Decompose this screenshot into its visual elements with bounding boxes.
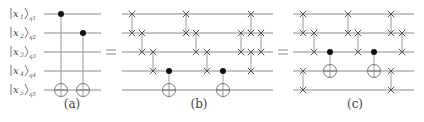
control-dot-icon [220,68,226,74]
control-dot-icon [166,68,172,74]
circuit-caption: (c) [347,97,363,111]
ket-angle [25,65,28,76]
ket-symbol: x [13,84,19,95]
equals-sign [106,50,116,54]
qubit-name: q2 [29,34,37,41]
ket-symbol: x [13,8,19,19]
ket-angle [25,84,28,95]
control-dot-icon [371,49,377,55]
qubit-label: x5q5 [11,84,37,98]
ket-angle [25,46,28,57]
circuit-caption: (b) [190,97,207,111]
qubit-name: q4 [29,72,37,79]
control-dot-icon [58,11,64,17]
qubit-label: x3q3 [11,46,37,60]
ket-symbol: x [13,46,19,57]
ket-index: 1 [20,13,24,20]
control-dot-icon [327,49,333,55]
equals-sign [278,50,288,54]
circuit-a: (a) [44,11,101,111]
circuit-b: (b) [122,11,273,111]
qubit-label: x4q4 [11,65,37,79]
control-dot-icon [80,30,86,36]
qubit-labels: x1q1x2q2x3q3x4q4x5q5 [11,8,37,98]
quantum-circuit-diagram: x1q1x2q2x3q3x4q4x5q5 (a)(b)(c) [0,0,424,122]
ket-index: 5 [20,89,24,96]
circuits: (a)(b)(c) [44,11,414,111]
ket-index: 3 [20,51,24,58]
ket-symbol: x [13,65,19,76]
qubit-name: q3 [29,53,37,60]
ket-symbol: x [13,27,19,38]
ket-index: 4 [19,70,24,77]
circuit-caption: (a) [64,97,81,111]
qubit-name: q1 [29,15,36,22]
qubit-label: x1q1 [11,8,36,22]
qubit-name: q5 [29,91,37,98]
circuit-c: (c) [293,11,414,111]
ket-index: 2 [19,32,24,39]
ket-angle [25,27,28,38]
qubit-label: x2q2 [11,27,37,41]
ket-angle [25,8,28,19]
